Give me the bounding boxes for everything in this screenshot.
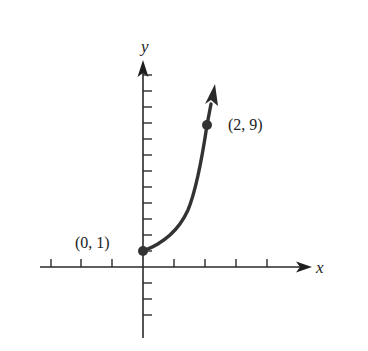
point-start-label: (0, 1): [75, 234, 110, 252]
x-ticks: [51, 259, 267, 267]
x-axis-label: x: [315, 258, 324, 277]
graph-canvas: x y (0, 1) (2, 9): [0, 0, 368, 351]
point-end: [202, 120, 212, 130]
function-curve: [143, 104, 211, 251]
point-end-label: (2, 9): [228, 116, 263, 134]
point-start: [138, 246, 148, 256]
y-axis-label: y: [139, 37, 149, 56]
y-ticks: [143, 75, 152, 315]
